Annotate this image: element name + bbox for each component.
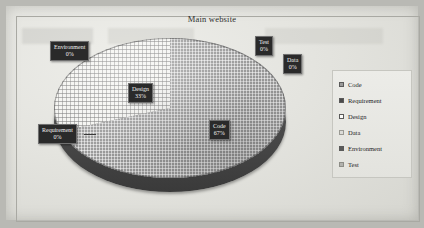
data-label-design-name: Design [132,86,149,92]
data-label-data[interactable]: Data 0% [283,54,302,74]
legend-swatch-environment-icon [339,146,344,151]
data-label-code-percent: 67% [213,130,226,138]
data-label-environment-name: Environment [54,44,85,50]
legend-item-code[interactable]: Code [339,76,407,92]
data-label-environment[interactable]: Environment 0% [50,41,89,61]
legend-label-design: Design [348,113,366,120]
chart-legend: Code Requirement Design Data Environment… [332,70,412,178]
legend-item-data[interactable]: Data [339,124,407,140]
legend-label-code: Code [348,81,362,88]
data-label-code[interactable]: Code 67% [209,120,230,140]
data-label-requirement-percent: 0% [42,134,73,142]
legend-swatch-test-icon [339,162,344,167]
legend-swatch-design-icon [339,114,344,119]
data-label-test-name: Test [259,39,269,45]
legend-label-data: Data [348,129,360,136]
data-label-design[interactable]: Design 33% [128,83,153,103]
legend-label-requirement: Requirement [348,97,382,104]
data-label-test-percent: 0% [259,46,269,54]
data-label-requirement[interactable]: Requirement 0% [38,124,77,144]
data-label-data-name: Data [287,57,298,63]
legend-label-environment: Environment [348,145,382,152]
data-label-data-percent: 0% [287,64,298,72]
legend-swatch-data-icon [339,130,344,135]
legend-item-design[interactable]: Design [339,108,407,124]
data-label-design-percent: 33% [132,93,149,101]
data-label-code-name: Code [213,123,226,129]
legend-item-requirement[interactable]: Requirement [339,92,407,108]
legend-swatch-code-icon [339,82,344,87]
screenshot-root: Main website Environment 0% Test 0% Data… [0,0,424,228]
data-label-requirement-leader-line [84,134,96,135]
legend-swatch-requirement-icon [339,98,344,103]
legend-item-environment[interactable]: Environment [339,140,407,156]
legend-item-test[interactable]: Test [339,156,407,172]
chart-title: Main website [0,14,424,24]
legend-label-test: Test [348,161,359,168]
data-label-requirement-name: Requirement [42,127,73,133]
data-label-test[interactable]: Test 0% [255,36,273,56]
data-label-environment-percent: 0% [54,51,85,59]
